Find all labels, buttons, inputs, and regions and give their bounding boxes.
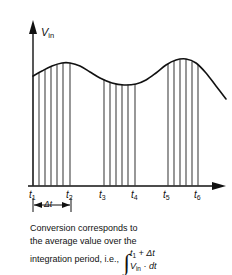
tick-label-t4-sub: 4 <box>134 194 138 201</box>
caption-line-3-with-integral: integration period, i.e., ∫ t1 + Δt Vin … <box>30 247 230 273</box>
caption-line-2: the average value over the <box>30 235 230 248</box>
hatch-line-layer <box>33 59 198 186</box>
integral-upper-limit: t1 + Δt <box>130 248 157 261</box>
tick-label-t6: t6 <box>194 190 201 201</box>
integral-integrand-rest: · dt <box>141 261 157 271</box>
integral-upper-rest: + Δt <box>136 248 155 258</box>
tick-label-t6-sub: 6 <box>197 194 201 201</box>
integral-expression: ∫ t1 + Δt Vin · dt <box>124 248 157 274</box>
hatch-group-3 <box>168 59 198 186</box>
tick-label-t1-sub: 1 <box>32 194 36 201</box>
y-axis-label: Vin <box>41 27 54 40</box>
vin-curve <box>33 59 226 99</box>
tick-label-t3: t3 <box>99 190 106 201</box>
integral-limits: t1 + Δt Vin · dt <box>130 248 157 274</box>
hatch-group-2 <box>104 80 135 186</box>
tick-label-t2-sub: 2 <box>69 194 73 201</box>
tick-label-t4: t4 <box>131 190 138 201</box>
tick-label-t1: t1 <box>29 190 36 201</box>
y-axis-label-subscript: in <box>48 31 54 40</box>
tick-label-t2: t2 <box>66 190 73 201</box>
integral-integrand: Vin · dt <box>130 261 157 274</box>
caption-line-3-text: integration period, i.e., <box>30 254 119 264</box>
hatch-group-1 <box>33 63 70 186</box>
tick-label-t3-sub: 3 <box>102 194 106 201</box>
tick-label-t5: t5 <box>163 190 170 201</box>
figure-caption: Conversion corresponds to the average va… <box>30 222 230 273</box>
tick-label-t5-sub: 5 <box>166 194 170 201</box>
delta-t-label: Δt <box>44 200 52 209</box>
caption-line-1: Conversion corresponds to <box>30 222 230 235</box>
